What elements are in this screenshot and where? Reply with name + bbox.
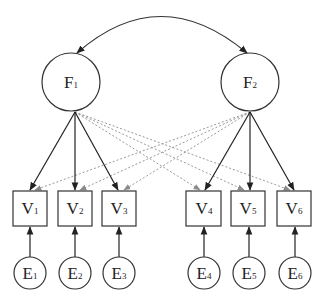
- error-node-e3: E3: [103, 257, 135, 289]
- cross-loadings: [35, 112, 290, 190]
- observed-node-v5: V5: [231, 191, 265, 226]
- error-paths: [30, 227, 295, 257]
- loading-f2-v4: [205, 112, 250, 190]
- observed-node-v6: V6: [277, 191, 311, 226]
- cross-loading-f2-v2: [80, 112, 250, 190]
- loading-f1-v3: [75, 112, 118, 190]
- error-node-e4: E4: [188, 257, 220, 289]
- error-node-e1: E1: [14, 257, 46, 289]
- error-node-e6: E6: [279, 257, 311, 289]
- error-node-e5: E5: [233, 257, 265, 289]
- observed-node-v2: V2: [58, 191, 92, 226]
- factor-node-f1: F1: [42, 53, 100, 111]
- observed-node-v1: V1: [13, 191, 47, 226]
- observed-node-v4: V4: [186, 191, 221, 226]
- cross-loading-f1-v6: [75, 112, 290, 190]
- sem-diagram: F1 F2 V1 V2 V3 V4 V5 V6: [0, 0, 323, 305]
- covariance-arc-f1-f2: [77, 17, 247, 54]
- error-node-e2: E2: [59, 257, 91, 289]
- factor-node-f2: F2: [221, 53, 279, 111]
- primary-loadings: [30, 112, 294, 190]
- observed-node-v3: V3: [102, 191, 136, 226]
